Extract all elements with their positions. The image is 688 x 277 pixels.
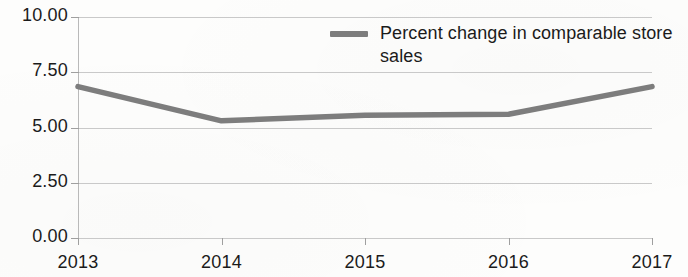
chart-legend: Percent change in comparable store sales [330, 22, 680, 69]
x-axis-tick-label: 2016 [488, 252, 529, 273]
line-chart: 10.007.505.002.500.00 201320142015201620… [0, 0, 688, 277]
x-axis-tickmark [652, 238, 653, 245]
y-axis-tick-label: 2.50 [0, 171, 68, 192]
x-axis-tick-label: 2013 [58, 252, 99, 273]
x-axis-tickmark [222, 238, 223, 245]
y-axis-tick-label: 5.00 [0, 116, 68, 137]
y-axis-tick-label: 7.50 [0, 60, 68, 81]
x-axis-tick-label: 2015 [345, 252, 386, 273]
x-axis-tick-label: 2017 [632, 252, 673, 273]
legend-swatch-icon [330, 31, 368, 37]
x-axis-tickmark [78, 238, 79, 245]
y-axis-tick-label: 0.00 [0, 226, 68, 247]
legend-label: Percent change in comparable store sales [380, 22, 680, 69]
y-axis-tick-label: 10.00 [0, 5, 68, 26]
x-axis-tickmark [365, 238, 366, 245]
x-axis-tickmark [509, 238, 510, 245]
x-axis-tick-label: 2014 [201, 252, 242, 273]
